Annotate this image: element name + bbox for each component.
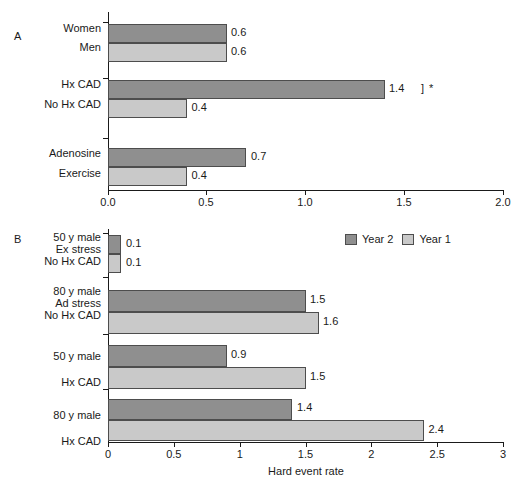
category-label-text: Men — [0, 41, 101, 53]
bar-value-women: 0.6 — [231, 26, 246, 38]
figure-root: A Women Men Hx CAD No Hx CAD Adenosine E… — [0, 0, 527, 498]
category-label-text: Ad stress — [0, 297, 101, 309]
panel-b-plot: 0 0.5 1 1.5 2 2.5 3 Hard event rate 0.1 … — [108, 229, 504, 442]
category-label-men: Men — [0, 41, 101, 53]
bar-value-80y-ad-stress-year1: 1.6 — [323, 315, 338, 327]
panel-a-x-ticklabel: 0.0 — [88, 196, 128, 208]
panel-b-x-ticklabel: 1 — [220, 448, 260, 460]
bar-exercise-year1 — [108, 167, 187, 186]
panel-b-y-tick — [103, 233, 108, 234]
bar-80y-ad-stress-year2 — [108, 290, 306, 312]
panel-a-x-ticklabel: 2.0 — [483, 196, 523, 208]
panel-b-x-tick — [240, 442, 241, 447]
category-label-text: Hx CAD — [0, 78, 101, 90]
bar-value-50y-hx-cad-year1: 1.5 — [310, 370, 325, 382]
category-label-text: Hx CAD — [0, 376, 101, 388]
panel-b-x-axis-title: Hard event rate — [206, 465, 406, 477]
category-label-text: Hx CAD — [0, 435, 101, 447]
panel-b-y-tick — [103, 389, 108, 390]
bar-value-no-hx-cad: 0.4 — [192, 101, 207, 113]
panel-b-x-ticklabel: 0.5 — [154, 448, 194, 460]
panel-a-x-ticklabel: 1.5 — [384, 196, 424, 208]
category-label-text: No Hx CAD — [0, 309, 101, 321]
panel-a-x-tick — [305, 190, 306, 195]
bar-value-50y-hx-cad-year2: 0.9 — [231, 348, 246, 360]
bar-hx-cad-year2 — [108, 80, 385, 99]
bar-80y-hx-cad-year1 — [108, 420, 424, 441]
panel-a-x-ticklabel: 1.0 — [285, 196, 325, 208]
bar-men-year1 — [108, 43, 227, 62]
panel-b-x-ticklabel: 2 — [351, 448, 391, 460]
category-label-hx-cad: Hx CAD — [0, 78, 101, 90]
category-label-adenosine: Adenosine — [0, 147, 101, 159]
significance-bracket-annotation: ] * — [421, 82, 434, 94]
bar-adenosine-year2 — [108, 148, 246, 167]
panel-a-y-tick — [103, 22, 108, 23]
panel-a-y-tick — [103, 78, 108, 79]
panel-b-x-tick — [503, 442, 504, 447]
bar-value-adenosine: 0.7 — [251, 150, 266, 162]
bar-value-80y-hx-cad-year1: 2.4 — [429, 423, 444, 435]
panel-a-x-tick — [503, 190, 504, 195]
bar-value-80y-ad-stress-year2: 1.5 — [310, 293, 325, 305]
category-label-50y-hx-cad: 50 y male Hx CAD — [0, 350, 101, 388]
panel-a-plot: 0.0 0.5 1.0 1.5 2.0 0.6 0.6 1.4 ] * 0.4 … — [108, 12, 504, 190]
bar-80y-ad-stress-year1 — [108, 312, 319, 334]
category-label-exercise: Exercise — [0, 167, 101, 179]
panel-a-x-tick — [404, 190, 405, 195]
category-label-text: No Hx CAD — [0, 255, 101, 267]
panel-b-x-tick — [371, 442, 372, 447]
bar-value-80y-hx-cad-year2: 1.4 — [297, 401, 312, 413]
category-label-text: 50 y male — [0, 350, 101, 362]
panel-b-x-ticklabel: 0 — [88, 448, 128, 460]
bar-no-hx-cad-year1 — [108, 99, 187, 118]
category-label-text: Exercise — [0, 167, 101, 179]
bar-value-50y-ex-stress-year1: 0.1 — [126, 256, 141, 268]
category-label-text: Women — [0, 22, 101, 34]
category-label-80y-ad-stress: 80 y male Ad stress No Hx CAD — [0, 285, 101, 321]
panel-b-x-ticklabel: 3 — [483, 448, 523, 460]
bar-value-hx-cad: 1.4 — [389, 82, 404, 94]
bar-women-year2 — [108, 24, 227, 43]
panel-b-x-tick — [437, 442, 438, 447]
panel-b-x-tick — [108, 442, 109, 447]
category-label-text: Adenosine — [0, 147, 101, 159]
panel-a-x-tick — [108, 190, 109, 195]
category-label-text: Ex stress — [0, 243, 101, 255]
bar-50y-ex-stress-year1 — [108, 254, 121, 273]
panel-b-x-ticklabel: 1.5 — [286, 448, 326, 460]
panel-a-x-ticklabel: 0.5 — [186, 196, 226, 208]
panel-b: B 50 y male Ex stress No Hx CAD 80 y mal… — [0, 225, 527, 498]
bar-50y-ex-stress-year2 — [108, 235, 121, 254]
bar-value-men: 0.6 — [231, 45, 246, 57]
category-label-text: 80 y male — [0, 285, 101, 297]
bar-value-exercise: 0.4 — [192, 169, 207, 181]
panel-b-y-tick — [103, 277, 108, 278]
category-label-text: 80 y male — [0, 409, 101, 421]
bar-80y-hx-cad-year2 — [108, 399, 292, 420]
category-label-text: 50 y male — [0, 231, 101, 243]
panel-a-y-tick — [103, 138, 108, 139]
category-label-80y-hx-cad: 80 y male Hx CAD — [0, 409, 101, 447]
category-label-no-hx-cad: No Hx CAD — [0, 98, 101, 110]
category-label-text: No Hx CAD — [0, 98, 101, 110]
panel-a-x-tick — [206, 190, 207, 195]
panel-a: A Women Men Hx CAD No Hx CAD Adenosine E… — [0, 0, 527, 225]
panel-b-x-tick — [306, 442, 307, 447]
bar-50y-hx-cad-year2 — [108, 345, 227, 367]
panel-b-x-tick — [174, 442, 175, 447]
panel-b-x-ticklabel: 2.5 — [417, 448, 457, 460]
bar-50y-hx-cad-year1 — [108, 367, 306, 389]
panel-a-x-axis — [108, 190, 504, 191]
bar-value-50y-ex-stress-year2: 0.1 — [126, 237, 141, 249]
category-label-women: Women — [0, 22, 101, 34]
panel-b-y-tick — [103, 334, 108, 335]
category-label-50y-ex-stress: 50 y male Ex stress No Hx CAD — [0, 231, 101, 267]
